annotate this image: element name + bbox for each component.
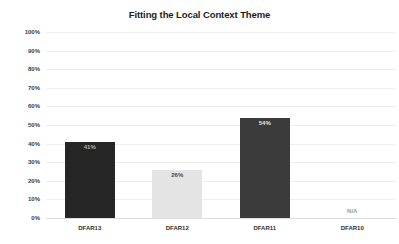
x-category-label: DFAR13 bbox=[46, 225, 134, 231]
y-tick-label: 30% bbox=[28, 159, 40, 165]
x-category-label: DFAR10 bbox=[309, 225, 397, 231]
y-tick-label: 0% bbox=[31, 215, 40, 221]
bar-DFAR11: 54% bbox=[240, 118, 290, 218]
y-tick-label: 20% bbox=[28, 178, 40, 184]
bar-value-label: 54% bbox=[240, 120, 290, 126]
y-tick-label: 80% bbox=[28, 66, 40, 72]
y-tick-label: 100% bbox=[25, 29, 40, 35]
y-tick-label: 90% bbox=[28, 48, 40, 54]
category-slot: 54%DFAR11 bbox=[221, 32, 309, 218]
bar-value-label: 41% bbox=[65, 144, 115, 150]
plot-area: 41%DFAR1326%DFAR1254%DFAR11N/ADFAR10 bbox=[46, 32, 396, 218]
category-slot: 26%DFAR12 bbox=[134, 32, 222, 218]
category-slot: N/ADFAR10 bbox=[309, 32, 397, 218]
bar-chart: Fitting the Local Context Theme 100%90%8… bbox=[0, 0, 399, 244]
x-category-label: DFAR11 bbox=[221, 225, 309, 231]
category-slot: 41%DFAR13 bbox=[46, 32, 134, 218]
bar-value-label: 26% bbox=[152, 172, 202, 178]
bar-DFAR12: 26% bbox=[152, 170, 202, 218]
y-tick-label: 10% bbox=[28, 196, 40, 202]
y-axis: 100%90%80%70%60%50%40%30%20%10%0% bbox=[0, 32, 42, 218]
y-tick-label: 70% bbox=[28, 85, 40, 91]
y-tick-label: 50% bbox=[28, 122, 40, 128]
bar-DFAR13: 41% bbox=[65, 142, 115, 218]
chart-title: Fitting the Local Context Theme bbox=[0, 9, 399, 20]
gridline bbox=[46, 218, 396, 219]
na-label: N/A bbox=[309, 208, 397, 214]
y-tick-label: 40% bbox=[28, 141, 40, 147]
x-category-label: DFAR12 bbox=[134, 225, 222, 231]
y-tick-label: 60% bbox=[28, 103, 40, 109]
